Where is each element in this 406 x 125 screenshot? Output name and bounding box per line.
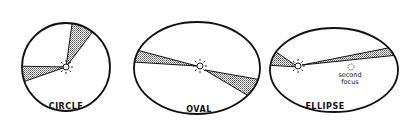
ellipse-panel: second focus ELLIPSE — [266, 28, 398, 112]
second-focus-icon — [348, 64, 354, 70]
orbit-shapes-diagram: CIRCLE OVAL — [0, 0, 406, 125]
oval-swept-areas — [133, 49, 262, 98]
oval-orbit — [134, 22, 260, 114]
circle-swept-areas — [10, 10, 100, 85]
second-focus-label-line2: focus — [341, 78, 359, 86]
circle-label: CIRCLE — [49, 102, 83, 111]
ellipse-swept-areas — [266, 45, 398, 67]
circle-panel: CIRCLE — [10, 10, 110, 111]
oval-panel: OVAL — [133, 22, 262, 114]
ellipse-orbit — [270, 28, 398, 112]
oval-label: OVAL — [186, 105, 212, 114]
ellipse-label: ELLIPSE — [305, 102, 344, 111]
